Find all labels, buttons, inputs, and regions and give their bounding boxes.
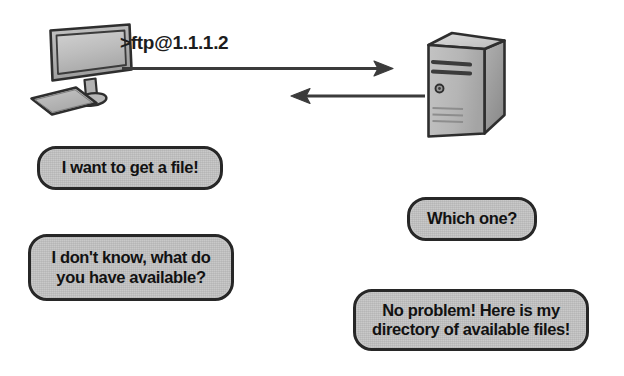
figure-canvas: >ftp@1.1.1.2 I want to get a file! I don… (0, 0, 624, 376)
server-power-led (438, 87, 441, 90)
server-drive-line (433, 121, 464, 122)
client-bubble-want-file-text: I want to get a file! (50, 158, 210, 177)
server-drive-line (433, 115, 464, 116)
desktop-computer-icon (32, 25, 132, 115)
server-drive-line (433, 108, 464, 109)
client-bubble-dont-know-line2: you have available? (51, 268, 210, 287)
server-bubble-directory: No problem! Here is my directory of avai… (353, 289, 589, 351)
server-vent-slot (433, 72, 470, 74)
request-arrow (122, 61, 393, 76)
client-bubble-dont-know-line1: I don't know, what do (51, 248, 210, 267)
server-bubble-which-one-text: Which one? (420, 209, 524, 228)
server-bubble-which-one: Which one? (407, 197, 537, 241)
client-bubble-want-file: I want to get a file! (37, 146, 223, 190)
server-tower-icon (429, 33, 505, 137)
ftp-command-label: >ftp@1.1.1.2 (120, 32, 228, 54)
server-bubble-directory-line2: directory of available files! (372, 320, 570, 339)
server-bubble-directory-line1: No problem! Here is my (372, 301, 570, 320)
response-arrow (291, 89, 425, 104)
server-vent-slot (433, 62, 470, 65)
client-bubble-dont-know: I don't know, what do you have available… (28, 234, 234, 301)
server-side-face (485, 41, 505, 134)
